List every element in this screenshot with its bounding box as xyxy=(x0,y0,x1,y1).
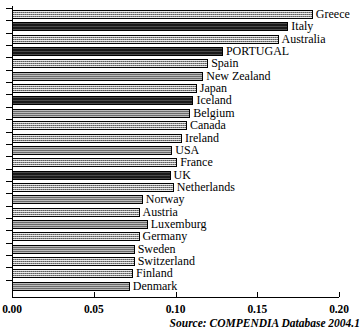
bar xyxy=(12,220,148,229)
x-axis-line xyxy=(12,297,339,298)
y-tick-3 xyxy=(6,45,12,46)
y-tick-18 xyxy=(6,230,12,231)
bar xyxy=(12,10,313,19)
horizontal-bar-chart: GreeceItalyAustraliaPORTUGALSpainNew Zea… xyxy=(0,0,363,336)
bar-row: Japan xyxy=(12,84,339,93)
y-tick-10 xyxy=(6,132,12,133)
y-tick-7 xyxy=(6,94,12,95)
y-tick-22 xyxy=(6,280,12,281)
bar-row: Finland xyxy=(12,269,339,278)
bar-label: Denmark xyxy=(133,279,178,293)
x-tick-0 xyxy=(12,292,13,297)
bar xyxy=(12,183,174,192)
bar-row: Denmark xyxy=(12,282,339,291)
bar-row: Ireland xyxy=(12,134,339,143)
bar xyxy=(12,22,288,31)
bar-row: Switzerland xyxy=(12,257,339,266)
bar-row: Netherlands xyxy=(12,183,339,192)
bar xyxy=(12,195,143,204)
x-tick-label-2: 0.10 xyxy=(166,303,186,315)
y-tick-1 xyxy=(6,20,12,21)
y-tick-20 xyxy=(6,255,12,256)
bar xyxy=(12,121,187,130)
y-tick-5 xyxy=(6,70,12,71)
bar xyxy=(12,146,172,155)
bar-row: Germany xyxy=(12,232,339,241)
bar xyxy=(12,257,135,266)
y-tick-11 xyxy=(6,144,12,145)
x-tick-3 xyxy=(257,292,258,297)
y-tick-19 xyxy=(6,243,12,244)
y-tick-15 xyxy=(6,193,12,194)
y-tick-6 xyxy=(6,82,12,83)
x-tick-label-3: 0.15 xyxy=(247,303,267,315)
bar xyxy=(12,72,203,81)
bar-row: New Zealand xyxy=(12,72,339,81)
y-tick-13 xyxy=(6,169,12,170)
y-tick-0 xyxy=(6,8,12,9)
bar-row: France xyxy=(12,158,339,167)
bar-row: Italy xyxy=(12,22,339,31)
bar xyxy=(12,96,193,105)
x-tick-label-1: 0.05 xyxy=(84,303,104,315)
bar-row: Spain xyxy=(12,59,339,68)
y-tick-2 xyxy=(6,33,12,34)
bar xyxy=(12,282,130,291)
y-tick-21 xyxy=(6,267,12,268)
bar-row: Norway xyxy=(12,195,339,204)
bar-row: PORTUGAL xyxy=(12,47,339,56)
bar-row: Luxemburg xyxy=(12,220,339,229)
x-tick-1 xyxy=(94,292,95,297)
bar xyxy=(12,269,133,278)
bar xyxy=(12,35,279,44)
x-tick-2 xyxy=(176,292,177,297)
y-tick-12 xyxy=(6,156,12,157)
y-tick-16 xyxy=(6,206,12,207)
bar-row: Iceland xyxy=(12,96,339,105)
source-note: Source: COMPENDIA Database 2004.1 xyxy=(170,317,360,329)
bar-label: Greece xyxy=(316,7,350,21)
bar-label: Netherlands xyxy=(177,180,235,194)
bar-row: Austria xyxy=(12,208,339,217)
x-tick-label-0: 0.00 xyxy=(2,303,22,315)
y-tick-4 xyxy=(6,57,12,58)
bar xyxy=(12,232,140,241)
bar xyxy=(12,109,190,118)
bar-row: UK xyxy=(12,171,339,180)
bar-row: Sweden xyxy=(12,245,339,254)
bar xyxy=(12,158,177,167)
y-tick-8 xyxy=(6,107,12,108)
y-tick-17 xyxy=(6,218,12,219)
bar-row: Greece xyxy=(12,10,339,19)
bar xyxy=(12,59,208,68)
bar xyxy=(12,134,182,143)
bar-row: Canada xyxy=(12,121,339,130)
bar-row: USA xyxy=(12,146,339,155)
x-tick-label-4: 0.20 xyxy=(329,303,349,315)
bar xyxy=(12,245,135,254)
bar xyxy=(12,208,140,217)
x-tick-4 xyxy=(339,292,340,297)
y-tick-14 xyxy=(6,181,12,182)
bar xyxy=(12,84,197,93)
bar xyxy=(12,171,171,180)
bar-row: Belgium xyxy=(12,109,339,118)
bar-row: Australia xyxy=(12,35,339,44)
bar xyxy=(12,47,223,56)
y-tick-9 xyxy=(6,119,12,120)
